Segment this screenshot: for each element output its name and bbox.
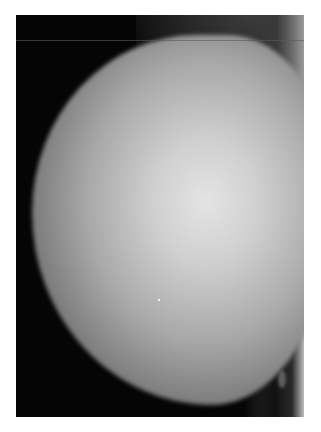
radiograph-image bbox=[16, 15, 304, 417]
breast-tissue-region bbox=[32, 35, 304, 405]
calcification-spot bbox=[158, 299, 160, 301]
lower-right-density bbox=[278, 370, 286, 388]
scan-artifact-line bbox=[16, 40, 304, 41]
